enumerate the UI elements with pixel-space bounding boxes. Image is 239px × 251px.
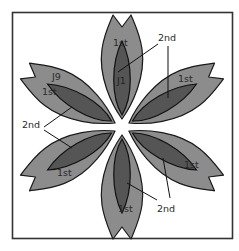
label-bottom-1st: 1st (118, 203, 133, 214)
label-upper-left-piece: J9 (51, 71, 61, 82)
label-top-1st: 1st (113, 37, 128, 48)
flower-diagram: 1st J1 1st 1st 1st 1st 1st J9 2nd 2nd 2n… (0, 0, 239, 251)
label-lower-left-1st: 1st (57, 167, 72, 178)
label-upper-right-1st: 1st (178, 73, 193, 84)
label-upper-left-1st: 1st (42, 86, 57, 97)
label-lower-right-1st: 1st (184, 159, 199, 170)
callout-2nd-left: 2nd (22, 119, 40, 130)
callout-2nd-top: 2nd (158, 32, 176, 43)
label-top-inner: J1 (116, 75, 126, 86)
callout-2nd-bottom: 2nd (157, 203, 175, 214)
